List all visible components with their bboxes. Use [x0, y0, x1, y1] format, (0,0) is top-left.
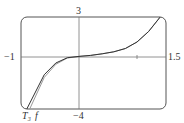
- x-min-label: −1: [4, 52, 15, 62]
- viewing-window-frame: [21, 17, 166, 109]
- f-curve-label: f: [35, 111, 38, 121]
- curve-f: [30, 17, 161, 109]
- y-min-label: −4: [73, 111, 84, 121]
- t3-curve-label: T₃: [22, 111, 31, 121]
- curve-t3: [27, 17, 160, 109]
- y-max-label: 3: [76, 6, 81, 16]
- x-max-label: 1.5: [168, 52, 181, 62]
- graph-plot: [0, 0, 184, 123]
